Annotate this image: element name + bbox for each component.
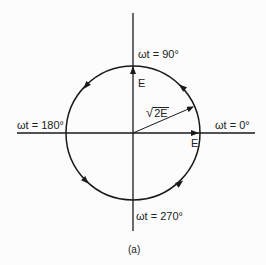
label-vertical-e: E [138, 78, 145, 89]
phasor-diagram [0, 0, 266, 265]
figure-caption: (a) [128, 245, 140, 255]
sqrt-radicand: 2E [153, 107, 168, 119]
rotation-arrow-icons [81, 81, 187, 188]
label-wt-270: ωt = 270° [136, 211, 183, 222]
diagram-canvas: ωt = 90° E √2E ωt = 180° ωt = 0° E ωt = … [0, 0, 266, 265]
label-wt-180: ωt = 180° [17, 120, 64, 131]
label-horizontal-e: E [191, 138, 198, 149]
sqrt-symbol: √ [146, 105, 153, 120]
label-resultant: √2E [146, 106, 169, 119]
horizontal-phasor-arrow-icon [191, 130, 199, 136]
arrow-icon [175, 178, 185, 188]
label-wt-90: ωt = 90° [138, 49, 179, 60]
label-wt-0: ωt = 0° [215, 120, 250, 131]
vertical-phasor-arrow-icon [130, 66, 136, 74]
